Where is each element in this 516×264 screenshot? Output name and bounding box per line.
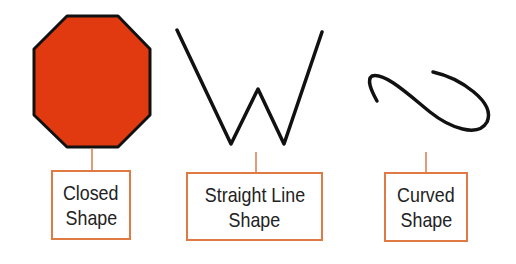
label-closed-line2: Shape (65, 205, 117, 230)
label-straight-line-shape: Straight Line Shape (186, 172, 323, 241)
octagon-closed-shape (34, 16, 150, 147)
zigzag-straight-line-shape (177, 30, 322, 144)
label-closed-line1: Closed (63, 180, 119, 205)
curve-curved-shape (369, 72, 488, 130)
label-curved-line1: Curved (397, 182, 455, 207)
label-curved-line2: Shape (400, 207, 452, 232)
label-curved-shape: Curved Shape (384, 172, 468, 242)
label-straight-line1: Straight Line (204, 182, 304, 207)
label-straight-line2: Shape (229, 207, 281, 232)
label-closed-shape: Closed Shape (51, 170, 131, 240)
